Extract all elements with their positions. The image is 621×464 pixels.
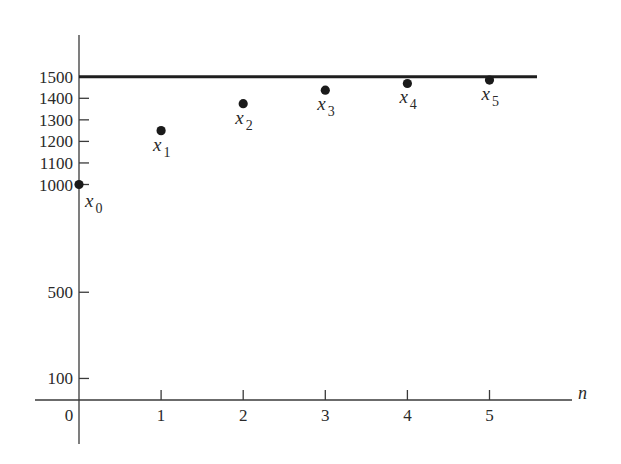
x-tick-label: 0 [65,406,74,425]
point-label-x1: x1 [152,134,170,160]
data-points: x0x1x2x3x4x5 [74,76,499,216]
y-tick-label: 1500 [39,68,73,87]
y-tick-label: 100 [48,369,74,388]
data-point-x0 [74,180,83,189]
point-label-x0: x0 [84,190,102,216]
x-axis-label: n [578,383,587,403]
chart: n 100500100011001200130014001500 012345 … [0,0,621,464]
y-tick-label: 1200 [39,132,73,151]
y-tick-label: 1000 [39,176,73,195]
point-label-x2: x2 [234,107,252,133]
x-ticks: 012345 [65,390,494,425]
x-tick-label: 3 [321,406,330,425]
y-tick-label: 1400 [39,89,73,108]
point-label-x5: x5 [481,83,499,109]
y-ticks: 100500100011001200130014001500 [39,68,89,389]
y-tick-label: 1300 [39,111,73,130]
x-tick-label: 4 [403,406,412,425]
point-label-x3: x3 [316,93,334,119]
y-tick-label: 500 [48,283,74,302]
x-tick-label: 1 [157,406,166,425]
point-label-x4: x4 [398,86,416,112]
x-tick-label: 2 [239,406,248,425]
x-tick-label: 5 [485,406,494,425]
y-tick-label: 1100 [40,154,73,173]
